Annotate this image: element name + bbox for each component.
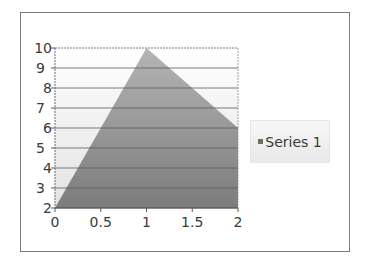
- y-tick-label: 7: [36, 100, 45, 116]
- y-tick-label: 8: [43, 80, 52, 96]
- legend: Series 1: [250, 120, 330, 163]
- y-tick-label: 6: [43, 120, 52, 136]
- x-tick-label: 1.5: [181, 214, 203, 230]
- legend-marker-icon: [258, 139, 263, 144]
- x-tick-label: 2: [234, 214, 243, 230]
- y-tick-label: 10: [34, 40, 52, 56]
- y-tick-label: 3: [36, 180, 45, 196]
- y-tick-label: 4: [43, 160, 52, 176]
- legend-label: Series 1: [265, 134, 321, 150]
- x-tick-label: 1: [142, 214, 151, 230]
- y-tick-label: 5: [36, 140, 45, 156]
- x-tick-label: 0.5: [90, 214, 112, 230]
- y-tick-label: 9: [36, 60, 45, 76]
- x-tick-label: 0: [51, 214, 60, 230]
